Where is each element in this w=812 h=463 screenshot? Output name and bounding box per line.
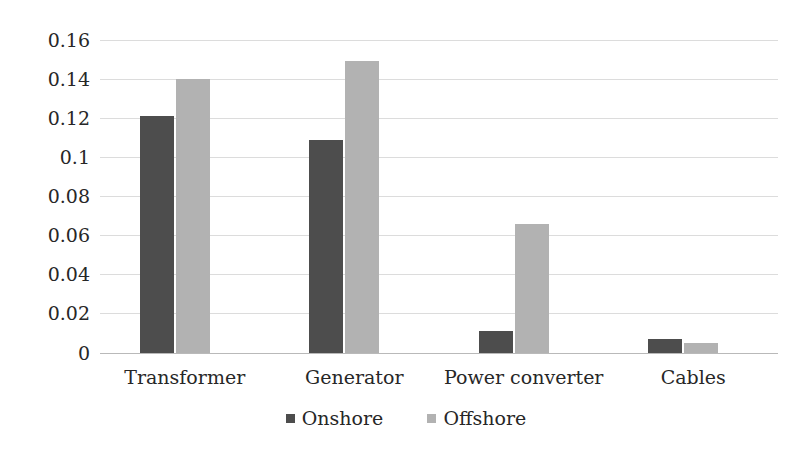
y-axis-tick-label: 0.1	[20, 148, 90, 167]
onshore-legend-swatch	[286, 414, 295, 423]
bar-onshore-generator	[309, 140, 343, 353]
bar-offshore-power-converter	[515, 224, 549, 353]
bar-offshore-generator	[345, 61, 379, 352]
offshore-legend-swatch	[427, 414, 436, 423]
gridline	[100, 40, 778, 41]
bar-onshore-power-converter	[479, 331, 513, 352]
y-axis-tick-label: 0.04	[20, 265, 90, 284]
y-axis-tick-label: 0.12	[20, 109, 90, 128]
y-axis-tick-label: 0.14	[20, 70, 90, 89]
legend-item-label: Offshore	[443, 409, 526, 428]
y-axis-tick-label: 0	[20, 344, 90, 363]
y-axis-tick-label: 0.08	[20, 187, 90, 206]
y-axis-tick-label: 0.02	[20, 304, 90, 323]
chart-legend: OnshoreOffshore	[0, 409, 812, 428]
legend-item-offshore[interactable]: Offshore	[427, 409, 526, 428]
y-axis-tick-label: 0.16	[20, 31, 90, 50]
y-axis-tick-label: 0.06	[20, 226, 90, 245]
bar-offshore-cables	[684, 343, 718, 353]
plot-area	[100, 40, 778, 353]
axis-baseline	[100, 353, 778, 354]
legend-item-onshore[interactable]: Onshore	[286, 409, 384, 428]
legend-item-label: Onshore	[302, 409, 384, 428]
x-axis-category-label: Cables	[589, 368, 799, 387]
bar-onshore-transformer	[140, 116, 174, 352]
bar-onshore-cables	[648, 339, 682, 353]
bar-offshore-transformer	[176, 79, 210, 352]
bar-chart: 0.160.140.120.10.080.060.040.020 Transfo…	[0, 0, 812, 463]
